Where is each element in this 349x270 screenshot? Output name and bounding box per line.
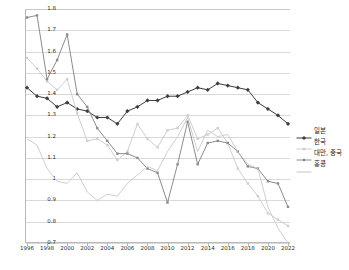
data-point-marker (247, 182, 249, 184)
data-point-marker (96, 127, 98, 129)
legend-marker-icon (296, 161, 312, 169)
data-point-marker (165, 94, 169, 98)
series-line (27, 117, 288, 243)
data-point-marker (66, 33, 68, 35)
data-point-marker (76, 112, 78, 114)
data-point-marker (267, 212, 269, 214)
data-point-marker (46, 80, 48, 82)
data-point-marker (257, 195, 259, 197)
data-point-marker (186, 90, 190, 94)
data-point-marker (56, 89, 58, 91)
data-point-marker (146, 138, 148, 140)
data-point-marker (126, 150, 128, 152)
legend-item-2[interactable]: 대만, 중국 (296, 149, 342, 157)
data-point-marker (247, 165, 249, 167)
data-point-marker (156, 146, 158, 148)
data-point-marker (126, 152, 128, 154)
data-point-marker (217, 140, 219, 142)
legend-item-label: 한국 (314, 139, 326, 146)
legend-item-1[interactable]: 한국 (296, 138, 342, 146)
data-point-marker (277, 218, 279, 220)
data-point-marker (76, 93, 78, 95)
data-point-marker (26, 16, 28, 18)
data-point-marker (106, 140, 108, 142)
data-point-marker (196, 86, 200, 90)
series-line (27, 58, 288, 226)
legend-marker-icon (296, 127, 312, 135)
data-point-marker (176, 163, 178, 165)
series-3 (27, 117, 288, 243)
legend-marker-icon (296, 149, 312, 157)
data-point-marker (116, 152, 118, 154)
data-point-marker (196, 138, 198, 140)
data-point-marker (96, 138, 98, 140)
data-point-marker (227, 142, 229, 144)
data-point-marker (176, 127, 178, 129)
data-point-marker (36, 14, 38, 16)
chart-legend: 일본한국대만, 중국홍콩 (296, 127, 342, 169)
data-point-marker (166, 201, 168, 203)
data-point-marker (237, 167, 239, 169)
data-point-marker (287, 206, 289, 208)
data-point-marker (196, 163, 198, 165)
series-0 (25, 81, 290, 126)
data-point-marker (277, 182, 279, 184)
data-point-marker (86, 140, 88, 142)
data-point-marker (287, 225, 289, 227)
legend-item-label: 대만, 중국 (314, 150, 342, 157)
data-point-marker (236, 86, 240, 90)
data-point-marker (175, 94, 179, 98)
legend-item-label: 홍콩 (314, 161, 326, 168)
data-point-marker (136, 123, 138, 125)
data-point-marker (66, 78, 68, 80)
data-point-marker (26, 57, 28, 59)
legend-marker-icon (296, 138, 312, 146)
data-point-marker (166, 129, 168, 131)
data-point-marker (156, 172, 158, 174)
data-point-marker (116, 159, 118, 161)
data-point-marker (155, 98, 159, 102)
data-point-marker (206, 142, 208, 144)
series-line (27, 15, 288, 206)
data-point-marker (186, 114, 188, 116)
data-point-marker (106, 144, 108, 146)
data-point-marker (56, 59, 58, 61)
data-point-marker (206, 133, 208, 135)
legend-item-label: 일본 (314, 128, 326, 135)
series-1 (26, 57, 289, 227)
fertility-rate-line-chart: 1.81.71.61.51.41.31.21.110.90.80.7 19961… (0, 0, 349, 270)
series-2 (26, 14, 289, 208)
data-point-marker (46, 78, 48, 80)
data-point-marker (86, 106, 88, 108)
data-point-marker (217, 127, 219, 129)
data-point-marker (136, 157, 138, 159)
data-point-marker (36, 67, 38, 69)
data-point-marker (267, 180, 269, 182)
data-point-marker (226, 83, 230, 87)
legend-item-3[interactable]: 홍콩 (296, 161, 342, 169)
legend-item-0[interactable]: 일본 (296, 127, 342, 135)
